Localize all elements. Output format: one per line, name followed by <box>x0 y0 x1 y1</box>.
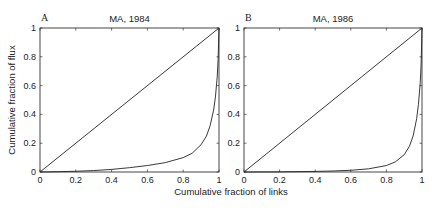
y-axis-label: Cumulative fraction of flux <box>6 45 17 155</box>
y-tick-label: 0 <box>31 167 36 177</box>
panel-title: MA, 1986 <box>313 13 354 24</box>
figure: 00.20.40.60.8100.20.40.60.81MA, 1984A 00… <box>0 0 434 210</box>
panel-letter: B <box>245 12 252 23</box>
x-tick-label: 0 <box>241 175 246 185</box>
y-tick-label: 0.2 <box>23 138 36 148</box>
x-tick-label: 0 <box>37 175 42 185</box>
x-tick-label: 1 <box>216 175 221 185</box>
y-tick-label: 0.4 <box>227 109 240 119</box>
y-tick-label: 0.2 <box>227 138 240 148</box>
x-axis-label: Cumulative fraction of links <box>174 186 288 197</box>
equality-line <box>244 28 422 172</box>
y-tick-label: 1 <box>235 23 240 33</box>
y-tick-label: 0.6 <box>227 81 240 91</box>
panel-letter: A <box>41 12 49 23</box>
x-tick-label: 0.2 <box>70 175 83 185</box>
x-tick-label: 0.4 <box>105 175 118 185</box>
x-tick-label: 0.2 <box>273 175 286 185</box>
y-tick-label: 0.4 <box>23 109 36 119</box>
x-tick-label: 0.4 <box>309 175 322 185</box>
panel-b: 00.20.40.60.8100.20.40.60.81MA, 1986B <box>227 12 424 185</box>
y-tick-label: 1 <box>31 23 36 33</box>
equality-line <box>40 28 219 172</box>
x-tick-label: 0.8 <box>177 175 190 185</box>
x-tick-label: 1 <box>419 175 424 185</box>
panel-a: 00.20.40.60.8100.20.40.60.81MA, 1984A <box>23 12 221 185</box>
y-tick-label: 0.6 <box>23 81 36 91</box>
x-tick-label: 0.6 <box>345 175 358 185</box>
y-tick-label: 0.8 <box>23 52 36 62</box>
x-tick-label: 0.6 <box>141 175 154 185</box>
panel-title: MA, 1984 <box>109 13 150 24</box>
y-tick-label: 0.8 <box>227 52 240 62</box>
x-tick-label: 0.8 <box>380 175 393 185</box>
y-tick-label: 0 <box>235 167 240 177</box>
